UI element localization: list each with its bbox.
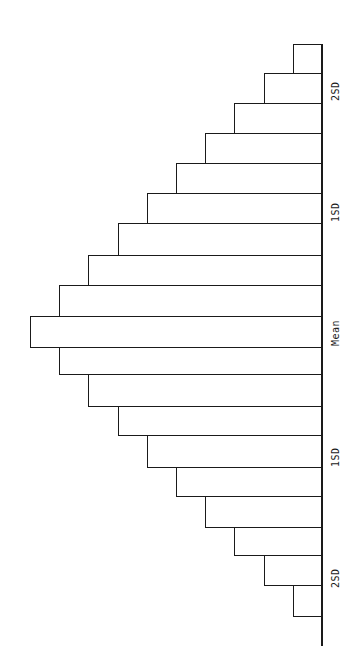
histogram-bar xyxy=(88,255,322,286)
histogram-bar xyxy=(205,496,322,528)
histogram-bar xyxy=(293,585,322,617)
histogram-bar xyxy=(234,103,322,134)
label-mean: Mean xyxy=(330,320,341,346)
label-top-2sd: 2SD xyxy=(330,81,341,101)
histogram-bar xyxy=(147,193,322,224)
histogram-bar xyxy=(118,406,322,436)
baseline-axis xyxy=(321,44,323,646)
label-bottom-2sd: 2SD xyxy=(330,568,341,588)
histogram-bar xyxy=(88,374,322,407)
histogram-bar xyxy=(176,467,322,497)
histogram-bar xyxy=(176,163,322,194)
histogram-bar xyxy=(205,133,322,164)
histogram-bar xyxy=(30,316,322,348)
histogram-bar xyxy=(293,44,322,74)
histogram-bar xyxy=(234,527,322,556)
histogram-bar xyxy=(147,435,322,468)
histogram-bar xyxy=(264,73,322,104)
histogram-bar xyxy=(264,555,322,586)
histogram-chart: 2SD 1SD Mean 1SD 2SD xyxy=(0,0,354,665)
histogram-bar xyxy=(59,285,322,317)
histogram-bar xyxy=(118,223,322,256)
label-top-1sd: 1SD xyxy=(330,202,341,222)
histogram-bar xyxy=(59,347,322,375)
label-bottom-1sd: 1SD xyxy=(330,447,341,467)
